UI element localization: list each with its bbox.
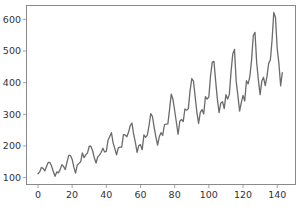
x-tick-label: 120 (234, 189, 252, 200)
x-tick-label: 40 (100, 189, 112, 200)
y-tick-label: 400 (3, 77, 21, 88)
y-tick-label: 200 (3, 140, 21, 151)
y-axis: 100200300400500600 (3, 14, 26, 183)
y-tick-label: 100 (3, 172, 21, 183)
x-tick-label: 80 (169, 189, 181, 200)
x-tick-label: 100 (200, 189, 218, 200)
y-tick-label: 500 (3, 45, 21, 56)
x-axis: 020406080100120140 (35, 185, 286, 200)
x-tick-label: 0 (35, 189, 41, 200)
x-tick-label: 60 (134, 189, 146, 200)
x-tick-label: 20 (66, 189, 78, 200)
line-chart: 100200300400500600 020406080100120140 (0, 0, 302, 214)
x-tick-label: 140 (268, 189, 286, 200)
y-tick-label: 600 (3, 14, 21, 25)
y-tick-label: 300 (3, 109, 21, 120)
